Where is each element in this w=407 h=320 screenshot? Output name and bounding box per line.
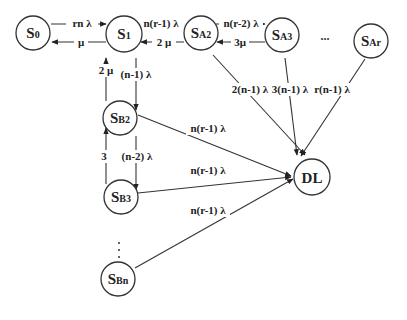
svg-text:r(n-1) λ: r(n-1) λ [314,83,350,96]
node-sbn: SBn [101,262,135,296]
edge-label-sa3-sa2: 3μ [231,36,249,49]
edge-label-s1-s0: μ [74,36,88,49]
edge-label-sa2-dl: 2(n-1) λ [228,83,272,96]
node-sb3: SB3 [104,180,138,214]
svg-text:μ: μ [78,36,85,48]
edge-label-sbn-dl: n(r-1) λ [186,204,230,217]
node-dl: DL [294,159,330,195]
node-sb2: SB2 [103,101,137,135]
svg-text:(n-1) λ: (n-1) λ [121,68,152,81]
svg-text:(n-2) λ: (n-2) λ [122,150,153,163]
svg-text:DL: DL [302,170,323,186]
svg-text:3: 3 [101,150,107,162]
svg-text:2 μ: 2 μ [99,64,114,76]
svg-text:n(r-1) λ: n(r-1) λ [143,17,179,30]
edge-label-sb3-sb2: 3 [100,150,110,163]
node-sa3: SA3 [265,18,299,52]
edge-label-sb2-sb3: (n-2) λ [119,150,155,163]
svg-text:n(r-1) λ: n(r-1) λ [190,204,226,217]
edge-label-sb2-dl: n(r-1) λ [186,122,230,135]
edge-label-sa3-dl: 3(n-1) λ [270,83,310,96]
edge-label-sa2-s1: 2 μ [152,36,176,49]
node-sa2: SA2 [184,16,218,50]
edge-sar-dl [301,59,365,156]
edge-label-s1-sb2: (n-1) λ [118,68,154,81]
svg-text:2(n-1) λ: 2(n-1) λ [232,83,269,96]
svg-text:n(r-1) λ: n(r-1) λ [190,122,226,135]
edge-sbn-dl [135,179,293,268]
svg-text:n(r-1) λ: n(r-1) λ [190,164,226,177]
svg-text:rn λ: rn λ [72,17,92,29]
edge-sb3-dl [138,177,291,193]
edge-label-sar-dl: r(n-1) λ [312,83,352,96]
edge-label-s1-sa2: n(r-1) λ [140,17,184,30]
svg-text:3(n-1) λ: 3(n-1) λ [272,83,309,96]
svg-text:n(r-2) λ: n(r-2) λ [223,17,259,30]
svg-text:3μ: 3μ [234,36,247,48]
edge-label-sa2-sa3: n(r-2) λ [219,17,263,30]
edge-label-sb3-dl: n(r-1) λ [186,164,230,177]
node-s0: S0 [16,16,50,50]
edge-label-sb2-s1: 2 μ [98,64,116,77]
vertical-ellipsis [118,242,120,258]
svg-text:2 μ: 2 μ [157,36,172,48]
state-diagram: rn λ μ n(r-1) λ 2 μ n(r-2) λ 3μ 2 μ (n-1… [0,0,407,320]
node-s1: S1 [106,16,142,52]
node-sar: SAr [354,24,388,58]
horizontal-ellipsis: ... [321,29,330,43]
edge-label-s0-s1: rn λ [66,17,98,30]
